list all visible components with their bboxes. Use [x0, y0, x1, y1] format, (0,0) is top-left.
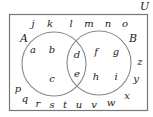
set-b-label: B — [128, 32, 137, 45]
element-letter-n: n — [105, 18, 111, 29]
element-letter-j: j — [29, 18, 34, 29]
element-letter-v: v — [91, 99, 97, 110]
element-letter-e: e — [74, 68, 80, 79]
venn-diagram: U A B jklmnoabcdefghizyxpqrstuvw — [0, 0, 153, 117]
element-letter-s: s — [49, 99, 54, 110]
element-letter-w: w — [107, 97, 116, 108]
element-letter-l: l — [69, 18, 72, 29]
element-letter-a: a — [30, 44, 36, 55]
element-letter-t: t — [63, 99, 68, 110]
element-letter-u: u — [76, 99, 82, 110]
element-letter-p: p — [15, 83, 22, 94]
universe-label: U — [140, 0, 150, 13]
element-letter-x: x — [124, 90, 130, 101]
element-letter-i: i — [114, 71, 117, 82]
element-letter-k: k — [47, 18, 53, 29]
element-letters: jklmnoabcdefghizyxpqrstuvw — [15, 18, 144, 110]
element-letter-g: g — [113, 46, 119, 57]
element-letter-f: f — [93, 46, 100, 57]
set-b-circle — [67, 31, 131, 95]
element-letter-c: c — [49, 73, 55, 84]
element-letter-z: z — [136, 56, 143, 67]
element-letter-y: y — [132, 73, 139, 84]
element-letter-q: q — [22, 93, 28, 104]
element-letter-r: r — [36, 98, 42, 109]
element-letter-o: o — [122, 18, 128, 29]
set-a-label: A — [19, 32, 28, 45]
element-letter-b: b — [49, 44, 55, 55]
element-letter-h: h — [93, 71, 99, 82]
element-letter-d: d — [74, 49, 80, 60]
element-letter-m: m — [84, 18, 93, 29]
